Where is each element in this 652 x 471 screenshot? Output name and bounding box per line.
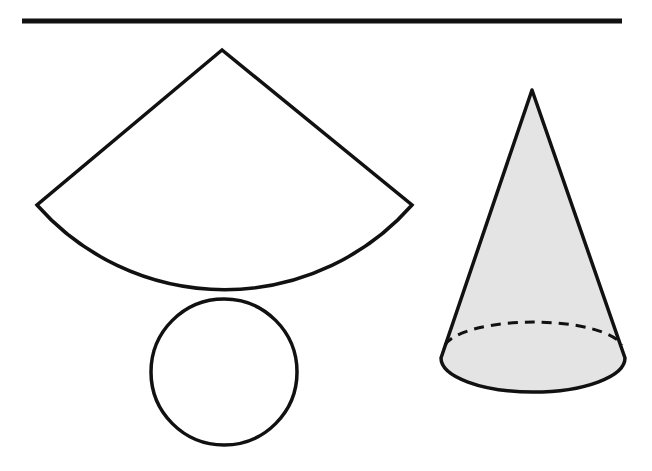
lateral-sector [37,50,412,290]
cone-body [441,90,625,392]
diagram-canvas [0,0,652,471]
cone [441,90,625,392]
base-circle [151,299,297,445]
